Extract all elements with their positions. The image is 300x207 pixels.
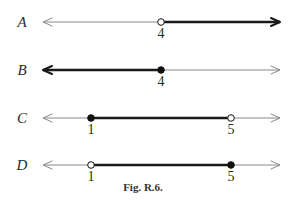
number-line-row-b: B4 bbox=[17, 62, 280, 89]
tick-label: 5 bbox=[228, 122, 235, 137]
closed-endpoint-icon bbox=[228, 162, 235, 169]
open-endpoint-icon bbox=[158, 19, 165, 26]
number-lines: A4B4C15D15 bbox=[16, 14, 280, 184]
row-label: A bbox=[16, 14, 27, 30]
open-endpoint-icon bbox=[88, 162, 95, 169]
number-line-row-a: A4 bbox=[16, 14, 280, 41]
tick-label: 5 bbox=[228, 169, 235, 184]
tick-label: 1 bbox=[88, 169, 95, 184]
closed-endpoint-icon bbox=[88, 115, 95, 122]
figure-caption: Fig. R.6. bbox=[123, 181, 163, 193]
tick-label: 4 bbox=[158, 26, 165, 41]
row-label: D bbox=[16, 157, 28, 173]
number-line-row-d: D15 bbox=[16, 157, 280, 184]
tick-label: 4 bbox=[158, 74, 165, 89]
row-label: B bbox=[17, 62, 26, 78]
tick-label: 1 bbox=[88, 122, 95, 137]
row-label: C bbox=[17, 110, 28, 126]
number-line-figure: A4B4C15D15 Fig. R.6. bbox=[0, 0, 300, 207]
closed-endpoint-icon bbox=[158, 67, 165, 74]
number-line-row-c: C15 bbox=[17, 110, 280, 137]
open-endpoint-icon bbox=[228, 115, 235, 122]
